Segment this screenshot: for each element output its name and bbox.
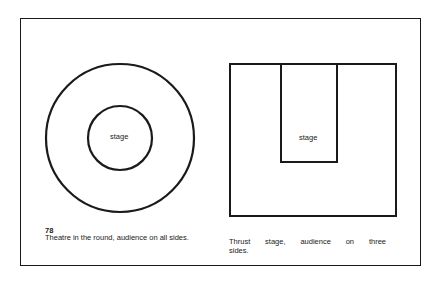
round-stage-label: stage — [110, 133, 128, 142]
thrust-stage-rect — [281, 64, 337, 162]
caption-thrust-line-1: Thrust stage, audience on three — [229, 238, 386, 247]
caption-word: stage, — [265, 238, 285, 247]
caption-word: on — [346, 238, 354, 247]
caption-theatre-in-the-round: Theatre in the round, audience on all si… — [45, 234, 200, 243]
caption-word: audience — [300, 238, 330, 247]
caption-thrust-stage: Thrust stage, audience on three sides. — [229, 238, 386, 255]
caption-word: three — [369, 238, 386, 247]
thrust-stage-label: stage — [299, 134, 317, 143]
caption-thrust-line-2: sides. — [229, 247, 386, 256]
